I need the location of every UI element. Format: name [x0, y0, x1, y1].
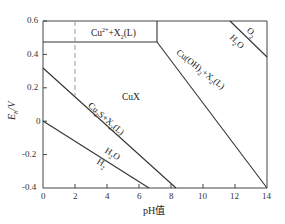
h2o-h2-line [43, 121, 149, 188]
x-tick-0: 0 [41, 192, 46, 201]
cux-cuoh2-boundary [157, 42, 267, 188]
x-tick-12: 12 [230, 192, 239, 201]
y-tick-0.4: 0.4 [27, 50, 38, 59]
y-tick-neg0.4: -0.4 [22, 183, 36, 192]
x-tick-14: 14 [262, 192, 271, 201]
region-cu2-x2: Cu2++X2(L) [91, 27, 136, 40]
y-axis-label: Eh/V [7, 102, 20, 121]
y-tick-0.2: 0.2 [27, 83, 38, 92]
region-cux: CuX [122, 93, 140, 103]
x-axis-label: pH值 [143, 206, 165, 216]
x-tick-10: 10 [198, 192, 207, 201]
x-tick-8: 8 [169, 192, 174, 201]
x-tick-2: 2 [73, 192, 78, 201]
y-tick-neg0.2: -0.2 [22, 150, 36, 159]
y-tick-0.6: 0.6 [27, 16, 38, 25]
x-tick-4: 4 [105, 192, 110, 201]
x-tick-6: 6 [137, 192, 142, 201]
y-tick-0: 0 [36, 117, 41, 126]
